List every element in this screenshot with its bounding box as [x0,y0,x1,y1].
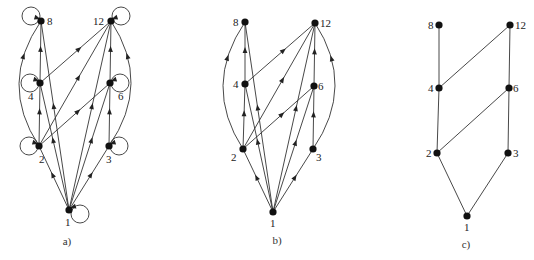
arrowhead-icon [312,48,317,54]
edge-2-to-12 [39,21,111,146]
arrowhead-icon [89,103,94,109]
node-label-8: 8 [428,19,434,31]
arrowhead-icon [293,105,298,111]
edge-1-to-12 [273,23,315,212]
edge-1-to-3 [467,153,508,216]
node-3 [105,142,112,149]
edge-2-to-4 [39,83,40,146]
self-loop-3 [110,137,128,155]
node-label-4: 4 [233,78,239,90]
node-label-2: 2 [39,153,45,165]
panel-label-c: c) [462,238,471,251]
node-label-2: 2 [231,151,237,163]
node-label-6: 6 [118,90,124,102]
edge-1-to-2 [437,153,467,216]
arrowhead-icon [291,175,296,181]
node-label-3: 3 [513,147,519,159]
arrowhead-icon [256,139,261,145]
arrowhead-icon [126,53,131,59]
self-loop-12 [112,7,130,25]
node-4 [241,80,248,87]
panel-b-digraph-without-loops: 12346812b) [223,16,335,247]
node-4 [435,84,442,91]
edge-2-to-4 [437,88,439,153]
arrowhead-icon [242,110,247,116]
arrowhead-icon [38,46,43,52]
node-1 [269,208,276,215]
node-6 [505,84,512,91]
edge-4-to-12 [439,25,510,88]
node-label-12: 12 [515,19,526,31]
arrowhead-icon [108,46,113,52]
edge-1-to-3 [69,146,109,210]
edge-1-to-6 [69,83,110,210]
node-2 [433,149,440,156]
arrowhead-icon [243,47,248,53]
arrowhead-icon [330,55,335,61]
node-8 [37,17,44,24]
edge-1-to-12 [69,21,111,210]
node-label-6: 6 [318,80,324,92]
edge-1-to-6 [273,86,314,212]
edge-4-to-8 [40,21,41,83]
edge-4-to-12 [245,23,315,84]
arrowhead-icon [75,75,80,81]
edge-4-to-12 [40,21,111,83]
node-8 [241,18,248,25]
node-label-1: 1 [464,221,470,233]
edge-6-to-12 [314,23,315,86]
node-label-3: 3 [316,151,322,163]
arrowhead-icon [51,172,56,178]
edge-2-to-6 [39,83,110,146]
arrowhead-icon [279,77,284,83]
node-label-6: 6 [513,82,519,94]
panel-a-full-digraph: 12346812a) [19,7,131,248]
node-3 [504,149,511,156]
node-label-3: 3 [106,153,112,165]
panel-label-b: b) [272,234,282,247]
node-label-2: 2 [426,147,432,159]
node-12 [311,19,318,26]
node-label-12: 12 [320,17,331,29]
node-2 [35,142,42,149]
node-4 [36,79,43,86]
arrowhead-icon [224,55,229,61]
arrowhead-icon [51,137,56,143]
edge-3-to-6 [508,88,509,153]
node-label-8: 8 [47,15,53,27]
arrowhead-icon [88,137,93,143]
node-label-12: 12 [93,15,104,27]
node-label-4: 4 [28,90,34,102]
arrowhead-icon [20,53,25,59]
edge-2-to-4 [243,84,245,149]
edge-1-to-3 [273,149,313,212]
relation-diagrams: 12346812a) 12346812b) 12346812c) [0,0,534,260]
edge-6-to-12 [509,25,510,88]
node-label-4: 4 [428,82,434,94]
node-6 [106,79,113,86]
edge-2-to-12 [243,23,315,149]
arrowhead-icon [292,140,297,146]
edge-1-to-8 [41,21,69,210]
arrowhead-icon [87,172,92,178]
node-label-1: 1 [65,216,71,228]
edge-2-to-6 [437,88,509,153]
panel-label-a: a) [63,235,72,248]
arrowhead-icon [37,108,42,114]
node-12 [107,17,114,24]
node-label-8: 8 [233,16,239,28]
self-loop-2 [20,137,38,155]
edge-6-to-12 [110,21,111,83]
arrowhead-icon [311,111,316,117]
node-6 [310,82,317,89]
node-1 [463,212,470,219]
node-8 [435,21,442,28]
arrowhead-icon [107,108,112,114]
panel-c-hasse-diagram: 12346812c) [426,19,526,251]
node-label-1: 1 [270,217,276,229]
edge-3-to-6 [109,83,110,146]
arrowhead-icon [255,175,260,181]
self-loop-8 [22,7,40,25]
arrowhead-icon [52,103,57,109]
node-1 [65,206,72,213]
